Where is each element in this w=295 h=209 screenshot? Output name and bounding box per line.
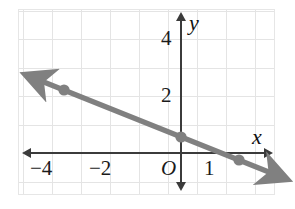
- x-tick-label-1: 1: [204, 158, 215, 179]
- x-axis-label: x: [252, 126, 262, 148]
- figure-root: −4 −2 1 4 2 O x y: [0, 0, 295, 209]
- x-tick-label-neg4: −4: [30, 158, 52, 179]
- y-tick-label-4: 4: [161, 28, 172, 49]
- y-axis-label: y: [189, 12, 199, 34]
- x-tick-label-neg2: −2: [89, 158, 111, 179]
- point-marker: [233, 154, 244, 165]
- origin-label: O: [161, 158, 176, 179]
- point-marker: [58, 84, 69, 95]
- y-tick-label-2: 2: [161, 85, 172, 106]
- point-marker: [175, 131, 186, 142]
